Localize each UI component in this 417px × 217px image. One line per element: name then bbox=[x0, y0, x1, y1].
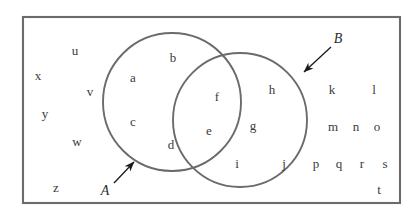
element-label: r bbox=[360, 157, 364, 170]
element-label: p bbox=[313, 157, 320, 170]
element-label: m bbox=[328, 120, 338, 133]
element-label: e bbox=[206, 124, 212, 137]
element-label: u bbox=[72, 44, 79, 57]
element-label: g bbox=[250, 119, 257, 132]
venn-diagram-figure: A B uxvywzabcdfehgijklmnopqrst bbox=[0, 0, 417, 217]
element-label: c bbox=[130, 115, 136, 128]
element-label: j bbox=[282, 157, 286, 170]
element-label: v bbox=[87, 85, 94, 98]
set-b-label: B bbox=[334, 32, 343, 46]
element-label: h bbox=[269, 83, 276, 96]
element-label: b bbox=[170, 51, 177, 64]
venn-diagram-canvas bbox=[0, 0, 417, 217]
element-label: n bbox=[353, 120, 360, 133]
element-label: w bbox=[72, 135, 81, 148]
element-label: s bbox=[382, 157, 387, 170]
element-label: y bbox=[42, 107, 49, 120]
element-label: f bbox=[215, 90, 219, 103]
element-label: x bbox=[35, 69, 42, 82]
element-label: d bbox=[168, 138, 175, 151]
element-label: k bbox=[329, 83, 336, 96]
set-a-label: A bbox=[101, 184, 110, 198]
element-label: a bbox=[130, 71, 136, 84]
element-label: i bbox=[235, 157, 239, 170]
element-label: t bbox=[377, 183, 381, 196]
element-label: l bbox=[372, 83, 376, 96]
element-label: q bbox=[336, 157, 343, 170]
element-label: o bbox=[374, 120, 381, 133]
element-label: z bbox=[53, 181, 59, 194]
